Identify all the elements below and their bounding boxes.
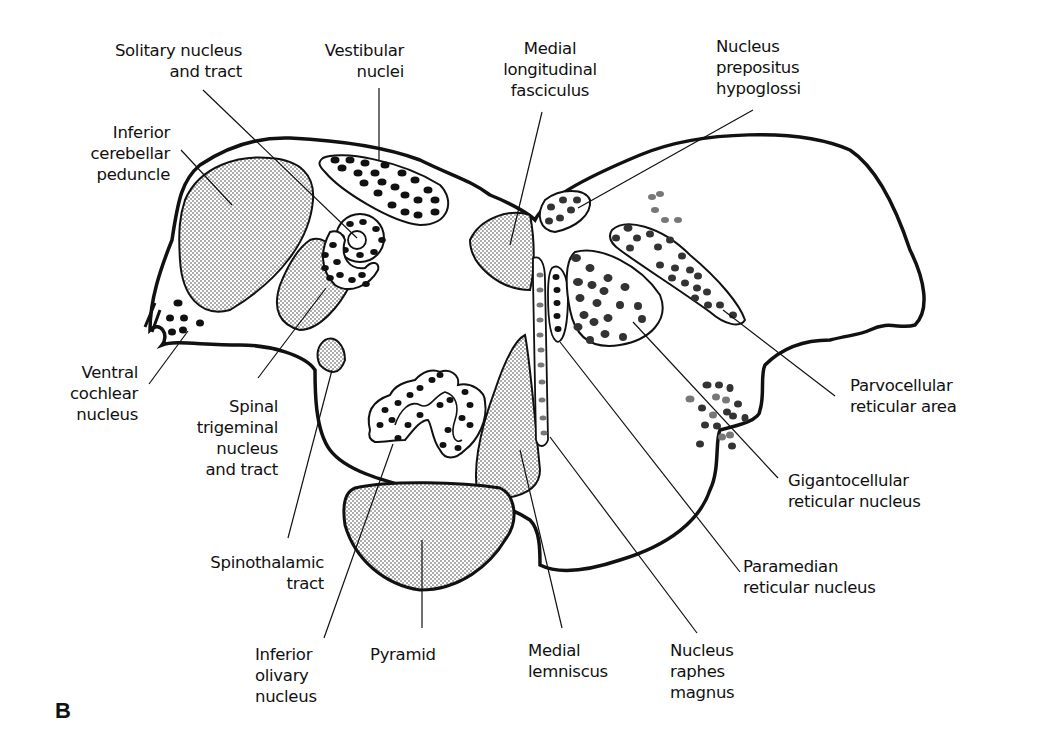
label-parvocellular-reticular-area: Parvocellular reticular area: [850, 375, 980, 417]
label-medial-longitudinal-fasciculus: Medial longitudinal fasciculus: [490, 38, 610, 101]
label-paramedian-reticular-nucleus: Paramedian reticular nucleus: [743, 556, 903, 598]
label-spinal-trigeminal-nucleus-tract: Spinal trigeminal nucleus and tract: [172, 396, 278, 480]
label-inferior-olivary-nucleus: Inferior olivary nucleus: [255, 644, 345, 707]
inferior-olivary-nucleus: [369, 370, 486, 457]
medial-longitudinal-fasciculus: [470, 213, 534, 290]
label-vestibular-nuclei: Vestibular nuclei: [300, 40, 404, 82]
label-nucleus-raphes-magnus: Nucleus raphes magnus: [670, 640, 750, 703]
spinothalamic-tract: [318, 339, 345, 372]
label-nucleus-prepositus-hypoglossi: Nucleus prepositus hypoglossi: [716, 36, 836, 99]
panel-letter: B: [55, 698, 71, 724]
label-medial-lemniscus: Medial lemniscus: [528, 640, 628, 682]
label-pyramid: Pyramid: [370, 644, 460, 665]
pyramid: [344, 483, 514, 590]
solitary-tract: [348, 231, 366, 249]
label-solitary-nucleus-tract: Solitary nucleus and tract: [84, 40, 242, 82]
label-spinothalamic-tract: Spinothalamic tract: [188, 552, 324, 594]
label-ventral-cochlear-nucleus: Ventral cochlear nucleus: [44, 362, 138, 425]
label-gigantocellular-reticular-nucleus: Gigantocellular reticular nucleus: [788, 470, 948, 512]
label-inferior-cerebellar-peduncle: Inferior cerebellar peduncle: [62, 122, 170, 185]
